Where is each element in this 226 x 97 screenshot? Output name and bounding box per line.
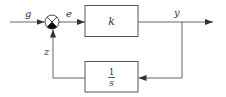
error-signal-label: e: [66, 8, 72, 19]
feedback-block-denominator: s: [109, 78, 114, 88]
block-diagram: g e k y 1 s z: [0, 0, 226, 97]
feedback-signal-label: z: [43, 46, 50, 57]
feedback-block-numerator: 1: [109, 67, 115, 77]
summing-junction: [45, 15, 59, 29]
forward-block-label: k: [108, 15, 115, 28]
feedback-signal-line: [53, 30, 85, 79]
input-signal-label: g: [25, 8, 31, 19]
output-signal-label: y: [173, 7, 180, 18]
feedback-branch-line: [139, 22, 183, 78]
